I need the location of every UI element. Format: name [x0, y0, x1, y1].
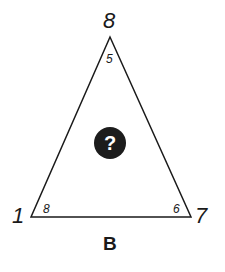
- unknown-value: ?: [104, 132, 116, 155]
- bottom-left-inner-number: 8: [43, 203, 50, 215]
- bottom-left-outer-number: 1: [12, 205, 24, 227]
- bottom-right-outer-number: 7: [195, 205, 207, 227]
- bottom-right-inner-number: 6: [173, 203, 180, 215]
- question-mark-icon: ?: [94, 127, 126, 159]
- top-inner-number: 5: [106, 53, 113, 65]
- top-outer-number: 8: [103, 10, 115, 32]
- puzzle-label: B: [103, 234, 117, 253]
